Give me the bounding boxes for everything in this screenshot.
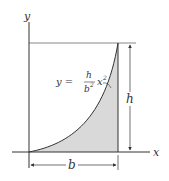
height-label: h bbox=[126, 92, 134, 106]
svg-text:y =: y = bbox=[55, 76, 73, 87]
svg-text:2: 2 bbox=[102, 74, 107, 81]
svg-text:2: 2 bbox=[89, 81, 94, 88]
y-axis-label: y bbox=[23, 10, 31, 23]
parabolic-area-diagram: y x h b y = h b 2 x 2 bbox=[0, 0, 169, 181]
base-label: b bbox=[68, 158, 76, 172]
shaded-area bbox=[29, 43, 118, 152]
svg-text:h: h bbox=[86, 70, 92, 80]
curve-equation: y = h b 2 x 2 bbox=[55, 70, 111, 94]
x-axis-label: x bbox=[153, 146, 160, 159]
